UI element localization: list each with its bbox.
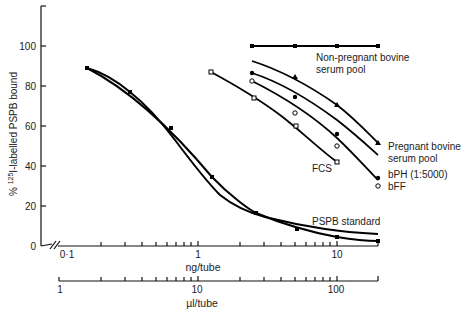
- series-non-pregnant: [250, 44, 380, 48]
- series-fcs: [209, 70, 339, 164]
- label-non-pregnant-1: Non-pregnant bovine: [316, 52, 410, 63]
- x2-tick-10: 10: [191, 284, 203, 295]
- y-tick-60: 60: [25, 121, 37, 132]
- label-pregnant-2: serum pool: [388, 153, 437, 164]
- x2-tick-labels: 1 10 100: [57, 284, 345, 295]
- x2-tick-100: 100: [328, 284, 345, 295]
- y-tick-40: 40: [25, 161, 37, 172]
- y-tick-80: 80: [25, 81, 37, 92]
- x-tick-0.1: 0·1: [60, 249, 75, 260]
- label-fcs: FCS: [312, 163, 332, 174]
- x-tick-10: 10: [331, 249, 343, 260]
- x2-axis-label: µl/tube: [186, 297, 218, 309]
- label-bph: bPH (1:5000): [388, 169, 447, 180]
- y-tick-0: 0: [30, 241, 36, 252]
- binding-chart: 100 80 60 40 20 0 % 125I-labelled PSPB b…: [0, 0, 473, 313]
- y-tick-labels: 100 80 60 40 20 0: [19, 41, 36, 252]
- y-tick-20: 20: [25, 201, 37, 212]
- y-tick-100: 100: [19, 41, 36, 52]
- label-pregnant-1: Pregnant bovine: [388, 141, 461, 152]
- x2-axis: [59, 276, 378, 281]
- label-pspb-standard: PSPB standard: [312, 216, 380, 227]
- y-axis: [41, 6, 46, 246]
- annotations: Non-pregnant bovine serum pool Pregnant …: [312, 52, 461, 227]
- x-tick-1: 1: [195, 249, 201, 260]
- label-non-pregnant-2: serum pool: [316, 64, 365, 75]
- label-bff: bFF: [388, 181, 406, 192]
- x-axis-label: ng/tube: [185, 261, 220, 273]
- x-axis: [41, 241, 378, 249]
- y-axis-label: % 125I-labelled PSPB bound: [7, 72, 19, 196]
- x2-tick-1: 1: [57, 284, 63, 295]
- x-tick-labels: 0·1 1 10: [60, 249, 343, 260]
